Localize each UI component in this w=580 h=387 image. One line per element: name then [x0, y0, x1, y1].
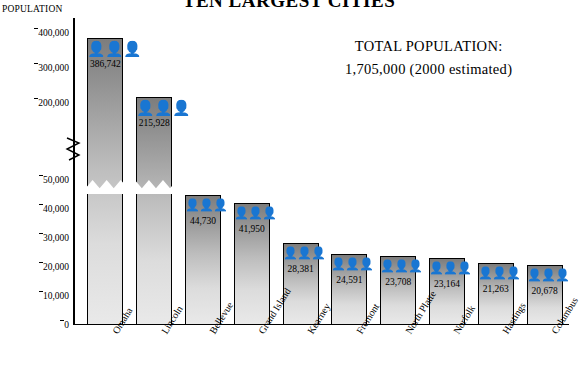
y-tick-0: 0: [64, 320, 69, 330]
value-label-hastings: 21,263: [473, 284, 519, 294]
bar-bellevue[interactable]: [185, 195, 221, 325]
value-label-lincoln: 215,928: [131, 118, 177, 128]
value-label-norfolk: 23,164: [424, 279, 470, 289]
value-label-north-platte: 23,708: [375, 277, 421, 287]
people-icon-omaha: 👤👤👤: [87, 42, 123, 57]
people-icon-kearney: 👤👤👤: [283, 247, 319, 259]
value-label-omaha: 386,742: [82, 59, 128, 69]
y-tick-50000: 50,000: [43, 175, 69, 185]
value-label-grand-island: 41,950: [229, 224, 275, 234]
bar-grand-island[interactable]: [234, 203, 270, 325]
axis-break-band: [75, 175, 181, 197]
people-icon-norfolk: 👤👤👤: [429, 262, 465, 274]
people-icon-bellevue: 👤👤👤: [185, 199, 221, 211]
y-tick-20000: 20,000: [43, 262, 69, 272]
value-label-bellevue: 44,730: [180, 216, 226, 226]
value-label-fremont: 24,591: [326, 275, 372, 285]
people-icon-grand-island: 👤👤👤: [234, 207, 270, 219]
y-axis-label: POPULATION: [2, 4, 63, 14]
y-tick-400000: 400,000: [38, 28, 69, 38]
y-axis-break-icon: [65, 136, 83, 162]
people-icon-north-platte: 👤👤👤: [380, 260, 416, 272]
people-icon-fremont: 👤👤👤: [331, 258, 367, 270]
axis-break-zigzag: [75, 175, 181, 197]
people-icon-hastings: 👤👤👤: [478, 267, 514, 279]
value-label-kearney: 28,381: [278, 264, 324, 274]
value-label-columbus: 20,678: [522, 286, 568, 296]
y-tick-300000: 300,000: [38, 63, 69, 73]
y-tick-10000: 10,000: [43, 291, 69, 301]
y-axis-line: [73, 18, 75, 325]
y-tick-30000: 30,000: [43, 233, 69, 243]
bar-lincoln[interactable]: [136, 97, 172, 325]
chart-title: TEN LARGEST CITIES: [0, 0, 578, 12]
people-icon-lincoln: 👤👤👤: [136, 101, 172, 116]
people-icon-columbus: 👤👤👤: [527, 269, 563, 281]
plot-area: 0 10,000 20,000 30,000 40,000 50,000 200…: [73, 18, 569, 325]
y-tick-200000: 200,000: [38, 98, 69, 108]
y-tick-40000: 40,000: [43, 204, 69, 214]
